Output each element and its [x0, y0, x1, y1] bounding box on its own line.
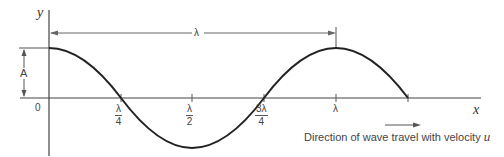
tick-label-three-quarter: 3λ 4 [255, 104, 268, 127]
y-axis-label: y [37, 6, 43, 20]
amplitude-arrow-down-icon [22, 90, 27, 97]
tick-label-half-den: 2 [187, 116, 193, 127]
caption: Direction of wave travel with velocity u [304, 129, 490, 145]
x-axis-label: x [473, 103, 479, 117]
direction-arrow-icon [413, 123, 421, 128]
tick-label-half: λ 2 [186, 104, 193, 127]
tick-label-three-quarter-num: 3λ [255, 104, 268, 116]
caption-variable: u [484, 129, 491, 144]
origin-label: 0 [35, 103, 41, 113]
tick-label-quarter-num: λ [115, 104, 122, 116]
amplitude-label: A [20, 68, 27, 79]
tick-label-full: λ [333, 104, 338, 114]
tick-label-quarter: λ 4 [115, 104, 122, 127]
wavelength-arrow-left-icon [50, 31, 58, 36]
wavelength-arrow-right-icon [328, 31, 336, 36]
amplitude-arrow-up-icon [22, 49, 27, 56]
caption-text: Direction of wave travel with velocity [304, 131, 481, 143]
tick-label-three-quarter-den: 4 [259, 116, 265, 127]
tick-label-half-num: λ [186, 104, 193, 116]
tick-label-quarter-den: 4 [116, 116, 122, 127]
wavelength-label: λ [194, 28, 199, 38]
